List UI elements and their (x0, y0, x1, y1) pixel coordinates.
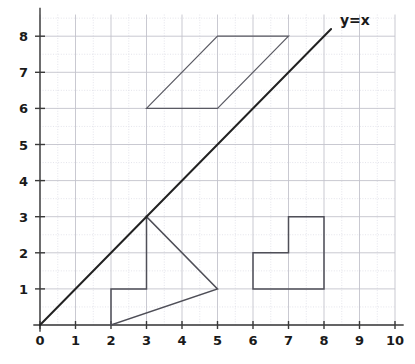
function-line-series (40, 29, 331, 325)
x-axis-tick-label: 5 (213, 333, 222, 348)
function-line-labels: y=x (340, 12, 370, 28)
x-axis-tick-label: 8 (319, 333, 328, 348)
y-axis-tick-label: 2 (19, 246, 28, 261)
y-axis-tick-label: 5 (19, 138, 28, 153)
axes (34, 9, 403, 331)
y-axis-tick-label: 4 (19, 174, 28, 189)
y-axis-tick-label: 8 (19, 29, 28, 44)
major-gridlines (40, 15, 395, 325)
x-axis-tick-label: 7 (284, 333, 293, 348)
x-axis-tick-label: 1 (71, 333, 80, 348)
series-line-y=x (40, 29, 331, 325)
x-axis-tick-label: 0 (35, 333, 44, 348)
coordinate-plot: 01234567891012345678 y=x (0, 0, 415, 364)
y-axis-tick-label: 7 (19, 65, 28, 80)
x-axis-tick-label: 4 (177, 333, 186, 348)
y-axis-tick-label: 6 (19, 101, 28, 116)
x-axis-tick-label: 10 (386, 333, 404, 348)
axis-tick-labels: 01234567891012345678 (19, 29, 404, 348)
series-label: y=x (340, 12, 370, 28)
y-axis-tick-label: 3 (19, 210, 28, 225)
x-axis-tick-label: 9 (355, 333, 364, 348)
axis-ticks (35, 36, 395, 329)
y-axis-tick-label: 1 (19, 282, 28, 297)
x-axis-tick-label: 3 (142, 333, 151, 348)
x-axis-tick-label: 2 (106, 333, 115, 348)
plot-canvas: 01234567891012345678 y=x (0, 0, 415, 364)
x-axis-tick-label: 6 (248, 333, 257, 348)
